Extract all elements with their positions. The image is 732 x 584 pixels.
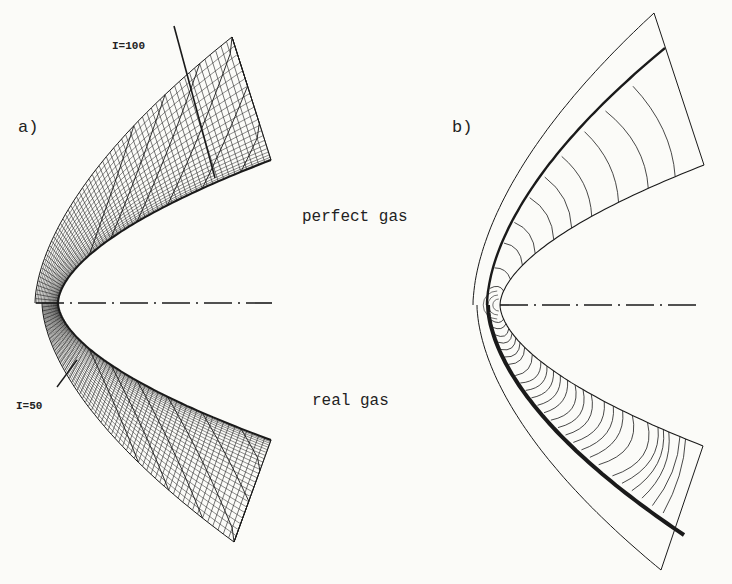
lower-isoline <box>491 319 504 322</box>
upper-radial-grid-line <box>118 143 145 217</box>
figure-canvas <box>0 0 732 584</box>
lower-isoline <box>622 427 658 483</box>
lower-characteristic-line <box>234 429 260 542</box>
lower-isoline <box>492 324 506 329</box>
lower-isoline <box>558 390 584 428</box>
lower-isoline <box>565 394 592 435</box>
upper-radial-grid-line <box>130 130 159 210</box>
lower-body-contour <box>500 305 703 446</box>
lower-isoline <box>663 439 685 513</box>
grid-line-label-i50: I=50 <box>16 400 42 412</box>
upper-radial-grid-line <box>114 148 141 220</box>
upper-isoline <box>633 86 675 176</box>
upper-shock-line <box>487 48 665 305</box>
upper-isoline <box>514 222 535 253</box>
lower-isoline <box>515 354 532 375</box>
lower-isoline <box>498 333 513 343</box>
upper-radial-grid-line <box>160 99 191 193</box>
lower-isoline <box>632 430 664 491</box>
upper-streamwise-grid-line <box>49 113 256 303</box>
upper-isoline <box>490 286 504 291</box>
lower-isoline <box>538 376 561 406</box>
upper-radial-grid-line <box>156 104 187 196</box>
lower-isoline <box>508 347 524 364</box>
lower-isoline <box>581 406 613 450</box>
real-gas-label: real gas <box>312 392 389 410</box>
lower-isoline <box>544 380 568 413</box>
upper-isoline <box>504 243 522 265</box>
upper-isoline <box>605 111 648 188</box>
stagnation-isoline <box>493 299 499 311</box>
lower-isoline <box>612 423 649 476</box>
upper-isoline <box>495 268 511 279</box>
lower-isoline <box>573 401 604 442</box>
upper-body-contour <box>500 165 704 305</box>
upper-radial-grid-line <box>126 135 154 213</box>
lower-streamwise-grid-line <box>54 303 262 466</box>
lower-outer-boundary <box>477 305 661 570</box>
perfect-gas-label: perfect gas <box>302 208 408 226</box>
lower-isoline <box>501 338 516 350</box>
upper-outflow-boundary <box>654 13 704 165</box>
lower-isoline <box>551 385 576 420</box>
panel-a-mesh <box>35 26 272 542</box>
upper-isoline <box>562 156 592 216</box>
upper-radial-grid-line <box>58 228 81 263</box>
upper-outer-boundary <box>473 13 654 305</box>
lower-isoline <box>599 415 634 464</box>
lower-isoline <box>526 366 547 390</box>
grid-line-label-i100: I=100 <box>112 40 145 52</box>
lower-isoline <box>590 411 623 458</box>
upper-streamwise-grid-line <box>54 140 264 303</box>
lower-isoline <box>642 432 669 498</box>
lower-streamwise-grid-line <box>48 303 247 507</box>
upper-radial-grid-line <box>89 179 114 236</box>
lower-streamwise-grid-line <box>55 303 264 462</box>
lower-isoline <box>495 329 509 337</box>
lower-isoline <box>531 371 553 398</box>
panel-b-contours <box>473 13 704 570</box>
panel-a-label: a) <box>18 118 38 137</box>
panel-b-label: b) <box>452 118 472 137</box>
upper-radial-grid-line <box>175 86 208 186</box>
upper-characteristic-line <box>232 37 259 172</box>
upper-radial-grid-line <box>79 192 104 243</box>
upper-isoline <box>545 177 572 228</box>
upper-isoline <box>585 132 619 203</box>
upper-isoline <box>530 198 554 240</box>
